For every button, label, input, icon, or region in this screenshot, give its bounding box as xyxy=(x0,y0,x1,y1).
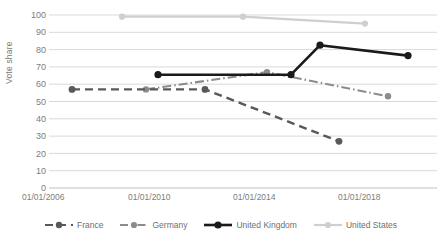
data-point xyxy=(385,93,391,99)
data-point xyxy=(240,14,246,20)
data-point xyxy=(404,52,411,59)
legend-label-france: France xyxy=(77,220,103,230)
legend-item-germany[interactable]: Germany xyxy=(119,220,187,230)
legend-label-united-states: United States xyxy=(346,220,397,230)
legend-item-france[interactable]: France xyxy=(44,220,103,230)
data-point xyxy=(69,86,76,93)
legend-swatch-united-states xyxy=(313,220,343,230)
legend-label-germany: Germany xyxy=(152,220,187,230)
x-tick: 01/01/2006 xyxy=(22,192,65,202)
chart-container: Vote share 100 90 80 70 60 50 40 30 20 1… xyxy=(0,0,441,240)
x-tick: 01/01/2014 xyxy=(233,192,276,202)
data-point xyxy=(119,14,125,20)
legend-label-united-kingdom: United Kingdom xyxy=(236,220,296,230)
legend-swatch-france xyxy=(44,220,74,230)
legend-item-united-states[interactable]: United States xyxy=(313,220,397,230)
data-point xyxy=(362,21,368,27)
data-point xyxy=(316,42,323,49)
x-tick: 01/01/2010 xyxy=(128,192,171,202)
data-point xyxy=(336,138,343,145)
data-point xyxy=(287,71,294,78)
gridlines xyxy=(49,15,437,188)
series-united-states xyxy=(119,14,368,27)
data-point xyxy=(202,86,209,93)
plot-area xyxy=(0,0,441,240)
legend-swatch-germany xyxy=(119,220,149,230)
series-united-kingdom xyxy=(154,42,411,79)
data-point xyxy=(154,71,161,78)
legend-item-united-kingdom[interactable]: United Kingdom xyxy=(203,220,296,230)
chart-legend: France Germany United Kingdom United Sta… xyxy=(0,216,441,234)
x-tick: 01/01/2018 xyxy=(338,192,381,202)
legend-swatch-united-kingdom xyxy=(203,220,233,230)
